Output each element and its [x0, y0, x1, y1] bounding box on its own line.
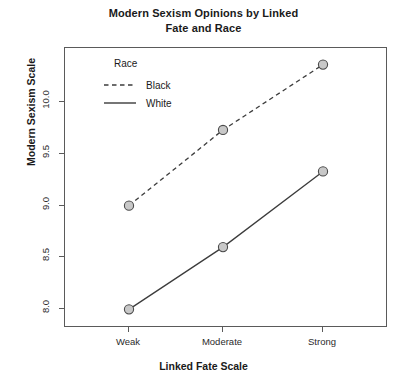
x-tick-label: Strong — [282, 336, 362, 347]
data-point-black-weak — [124, 201, 133, 210]
data-point-white-strong — [318, 167, 327, 176]
y-tick-label: 8.5 — [40, 238, 51, 272]
series-line-white — [129, 171, 323, 309]
x-tick-label: Moderate — [182, 336, 262, 347]
legend-entry-black: Black — [102, 76, 222, 94]
data-point-black-moderate — [218, 125, 227, 134]
legend-line-swatch-black — [102, 79, 138, 91]
y-tick-label: 10.0 — [40, 82, 51, 116]
legend-entries: BlackWhite — [102, 76, 222, 112]
legend-entry-white: White — [102, 94, 222, 112]
data-point-white-weak — [124, 305, 133, 314]
data-point-black-strong — [318, 60, 327, 69]
legend-label: White — [146, 98, 172, 109]
chart-title: Modern Sexism Opinions by Linked Fate an… — [0, 6, 407, 36]
legend-title: Race — [114, 58, 222, 69]
legend-label: Black — [146, 80, 170, 91]
y-tick-label: 8.0 — [40, 290, 51, 324]
legend-line-swatch-white — [102, 97, 138, 109]
x-axis-title: Linked Fate Scale — [0, 360, 407, 372]
chart-figure: Modern Sexism Opinions by Linked Fate an… — [0, 0, 407, 386]
y-axis-title: Modern Sexism Scale — [25, 2, 37, 222]
legend: Race BlackWhite — [102, 58, 222, 112]
x-tick-label: Weak — [88, 336, 168, 347]
data-point-white-moderate — [218, 243, 227, 252]
y-tick-label: 9.0 — [40, 186, 51, 220]
y-tick-label: 9.5 — [40, 134, 51, 168]
